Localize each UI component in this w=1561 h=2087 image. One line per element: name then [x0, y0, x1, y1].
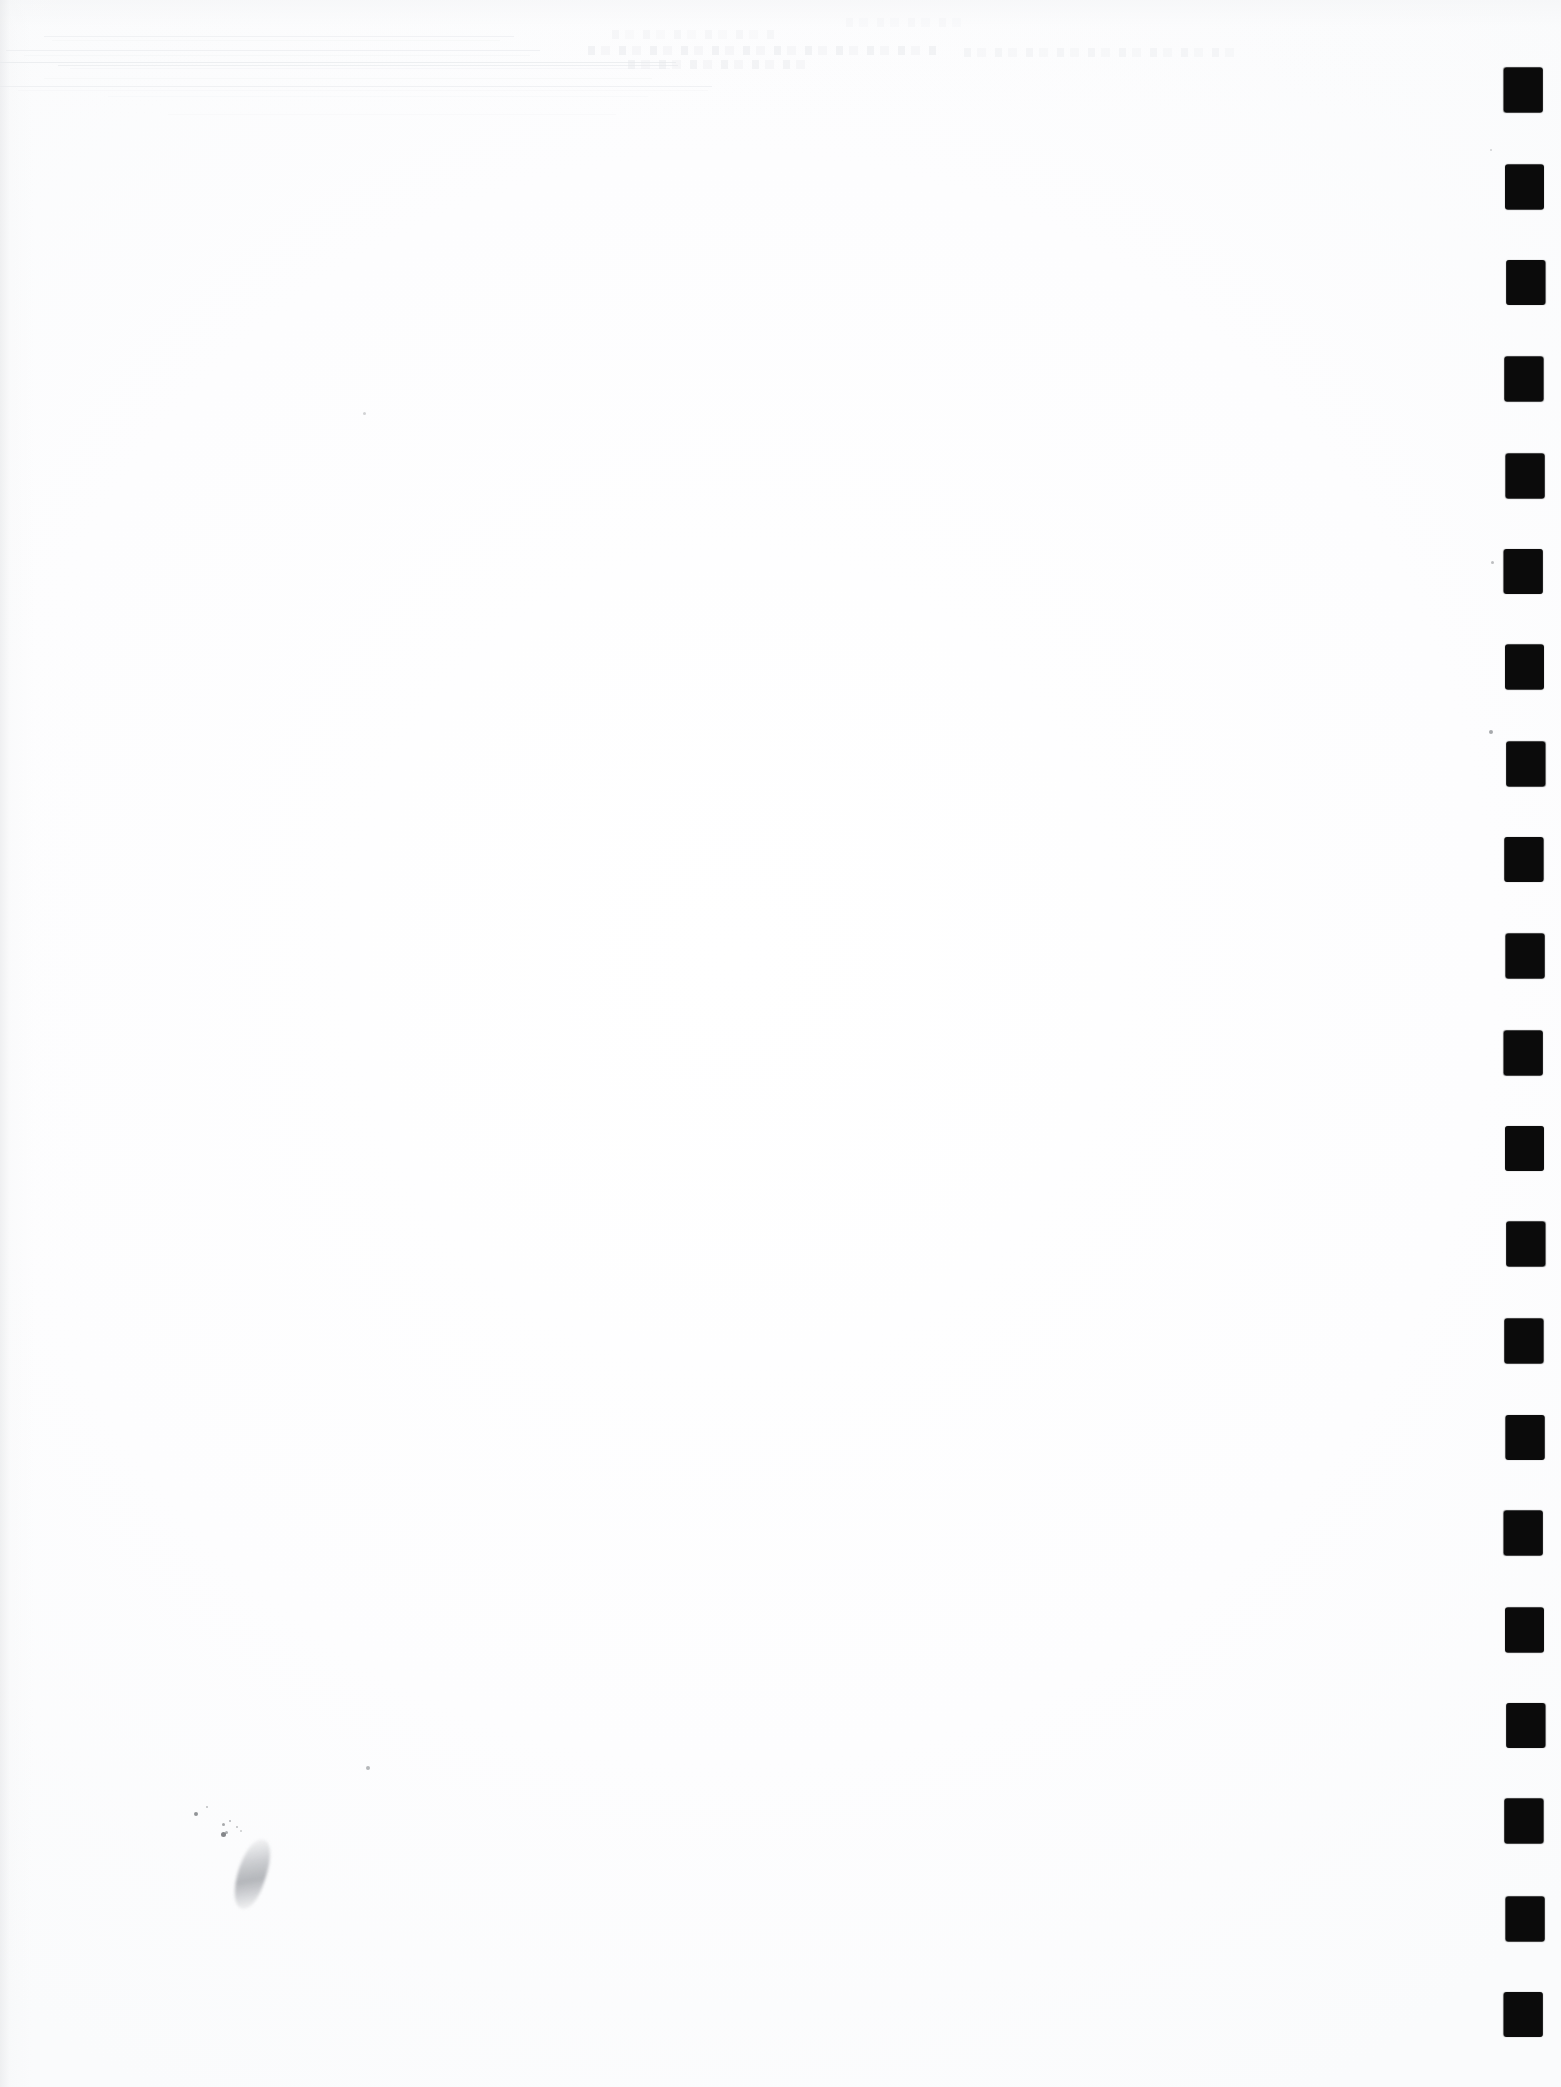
ghost-text-fragment	[628, 60, 814, 69]
page-body-text	[0, 0, 1, 1]
ink-speck	[194, 1812, 198, 1816]
scanned-page	[0, 0, 1561, 2087]
ink-speck	[229, 1820, 231, 1822]
fiducial-mark	[1506, 454, 1545, 499]
scanner-streak	[18, 90, 708, 91]
ink-speck	[225, 1831, 228, 1834]
ghost-text-fragment	[846, 18, 964, 27]
fiducial-mark	[1504, 1031, 1543, 1076]
fiducial-mark	[1505, 1608, 1544, 1653]
scanner-streak	[44, 36, 514, 37]
scanner-streak	[70, 68, 670, 69]
ink-speck	[206, 1806, 208, 1808]
fiducial-mark	[1505, 1126, 1544, 1171]
fiducial-mark	[1505, 644, 1544, 689]
scanner-streak	[6, 50, 540, 51]
fiducial-mark	[1504, 549, 1543, 594]
scanner-streak	[44, 78, 652, 79]
ghost-text-fragment	[612, 30, 774, 39]
fiducial-mark	[1505, 165, 1544, 210]
scanner-streak	[58, 65, 678, 66]
fiducial-mark	[1504, 1510, 1543, 1555]
scanner-streak	[0, 86, 712, 87]
scanner-streak	[108, 96, 648, 97]
fiducial-mark	[1506, 260, 1545, 305]
ink-speck	[1491, 561, 1494, 564]
fiducial-mark	[1506, 1703, 1545, 1748]
fiducial-mark	[1504, 67, 1543, 112]
fiducial-mark	[1506, 933, 1545, 978]
ink-speck	[1490, 149, 1492, 151]
ink-speck	[366, 1766, 370, 1770]
scanner-streak	[52, 40, 500, 41]
fiducial-mark	[1504, 356, 1543, 401]
scanner-streak	[24, 55, 530, 56]
ink-speck	[1489, 730, 1493, 734]
fiducial-mark	[1506, 1415, 1545, 1460]
fiducial-mark	[1504, 1319, 1543, 1364]
fiducial-mark	[1506, 742, 1545, 787]
scanner-streak	[168, 114, 616, 115]
ink-speck	[221, 1832, 226, 1837]
ghost-text-fragment	[588, 46, 940, 55]
fiducial-mark	[1506, 1897, 1545, 1942]
fiducial-mark	[1504, 1798, 1543, 1843]
ink-speck	[222, 1823, 225, 1826]
fiducial-mark	[1506, 1221, 1545, 1266]
ink-speck	[236, 1826, 238, 1828]
fiducial-mark	[1504, 1992, 1543, 2037]
ink-speck	[363, 412, 366, 415]
paper-background	[0, 0, 1561, 2087]
scanner-streak	[0, 62, 676, 63]
fiducial-mark	[1504, 837, 1543, 882]
pen-smudge	[228, 1835, 277, 1912]
ghost-text-fragment	[964, 48, 1240, 57]
ink-speck	[240, 1830, 242, 1832]
